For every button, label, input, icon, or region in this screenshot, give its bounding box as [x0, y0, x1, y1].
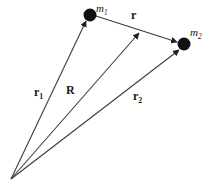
mass-label-m2-text: m — [190, 26, 198, 38]
vector-line-r1 — [11, 21, 86, 179]
mass-label-m2-subscript: 2 — [198, 33, 202, 41]
mass-label-m1: m1 — [96, 3, 108, 17]
vector-line-r — [96, 16, 177, 42]
vector-canvas — [0, 0, 212, 186]
mass-label-m2: m2 — [190, 27, 202, 41]
vector-label-r1-subscript: 1 — [39, 92, 43, 101]
mass-label-m1-text: m — [96, 2, 104, 14]
vector-label-R: R — [66, 84, 75, 99]
vector-label-r: r — [131, 9, 136, 24]
vector-diagram: m1 m2 r1 R r2 r — [0, 0, 212, 186]
vector-label-r-text: r — [131, 8, 136, 22]
vector-label-r2-subscript: 2 — [138, 96, 142, 105]
vector-line-R — [11, 33, 139, 179]
vector-label-r2: r2 — [133, 90, 142, 105]
mass-point-m1 — [84, 9, 97, 22]
vector-label-r1: r1 — [34, 86, 43, 101]
vector-label-R-text: R — [66, 83, 75, 97]
mass-point-m2 — [178, 38, 191, 51]
vector-line-r2 — [11, 50, 179, 179]
mass-label-m1-subscript: 1 — [104, 9, 108, 17]
